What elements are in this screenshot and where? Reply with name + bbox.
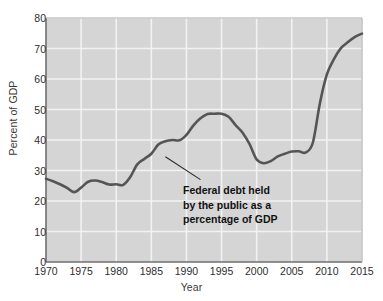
x-tick-label-2005: 2005	[272, 265, 312, 277]
x-tick-label-2000: 2000	[237, 265, 277, 277]
x-tick-label-2010: 2010	[307, 265, 347, 277]
x-tick-label-1985: 1985	[131, 265, 171, 277]
x-axis-title: Year	[0, 281, 383, 293]
x-tick-label-1990: 1990	[166, 265, 206, 277]
y-tick-label-20: 20	[6, 195, 46, 207]
chart-plot-svg	[0, 0, 383, 301]
series-callout-annotation: Federal debt held by the public as a per…	[183, 183, 278, 227]
x-tick-label-1970: 1970	[26, 265, 66, 277]
y-tick-label-10: 10	[6, 226, 46, 238]
y-tick-label-80: 80	[6, 12, 46, 24]
x-tick-label-1980: 1980	[96, 265, 136, 277]
callout-line-2: by the public as a	[183, 198, 278, 213]
chart-container: 01020304050607080 1970197519801985199019…	[0, 0, 383, 301]
y-tick-label-70: 70	[6, 43, 46, 55]
callout-line-1: Federal debt held	[183, 183, 278, 198]
y-axis-title: Percent of GDP	[7, 58, 19, 178]
x-tick-label-1975: 1975	[61, 265, 101, 277]
x-tick-label-1995: 1995	[202, 265, 242, 277]
callout-line-3: percentage of GDP	[183, 212, 278, 227]
x-tick-label-2015: 2015	[342, 265, 382, 277]
